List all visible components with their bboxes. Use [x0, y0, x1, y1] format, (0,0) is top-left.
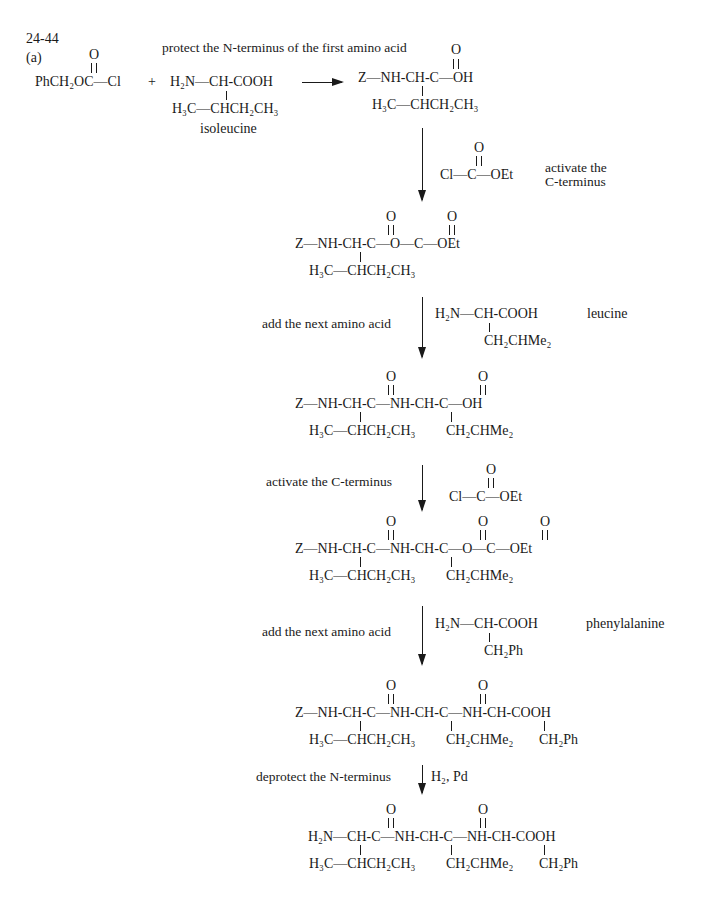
carbonyl-oxygen-3: O	[540, 514, 550, 530]
double-bond-2	[480, 530, 486, 540]
problem-part: (a)	[26, 50, 42, 66]
double-bond	[476, 156, 482, 166]
side-chain-bond-2	[451, 412, 452, 422]
product-backbone: Z—NH-CH-C—NH-CH-C—O—C—OEt	[295, 541, 532, 557]
reagent-h2-pd: H₂, Pd	[431, 769, 468, 785]
step-label: activate the C-terminus	[266, 474, 392, 490]
reagent-ethyl-chloroformate: Cl—C—OEt	[449, 489, 522, 505]
double-bond-1	[388, 818, 394, 828]
reaction-arrow	[422, 606, 423, 664]
product-backbone: Z—NH-CH-C—NH-CH-C—NH-CH-COOH	[295, 705, 551, 721]
side-chain-bond-2	[451, 845, 452, 855]
carbonyl-oxygen-2: O	[478, 802, 488, 818]
carbonyl-oxygen: O	[486, 462, 496, 478]
product-side-chain-2: CH₂CHMe₂	[446, 423, 513, 439]
plus-sign: +	[148, 74, 156, 90]
double-bond-2	[480, 385, 486, 395]
carbonyl-oxygen-1: O	[386, 209, 396, 225]
side-chain-bond-1	[360, 721, 361, 731]
double-bond	[488, 478, 494, 488]
amino-acid-name: phenylalanine	[586, 616, 665, 632]
carbonyl-oxygen: O	[89, 47, 99, 63]
amino-acid-backbone: H₂N—CH-COOH	[435, 306, 538, 322]
product-side-chain-2: CH₂CHMe₂	[446, 856, 513, 872]
amino-acid-name: isoleucine	[200, 121, 257, 137]
double-bond-2	[449, 225, 455, 235]
amino-acid-backbone: H₂N—CH-COOH	[435, 616, 538, 632]
carbonyl-oxygen-2: O	[478, 514, 488, 530]
step-label: protect the N-terminus of the first amin…	[162, 40, 407, 56]
product-side-chain-3: CH₂Ph	[539, 856, 578, 872]
carbonyl-oxygen-1: O	[386, 369, 396, 385]
amino-acid-side-chain: CH₂Ph	[484, 643, 523, 659]
problem-number: 24-44	[26, 31, 59, 47]
side-chain-bond-1	[360, 557, 361, 567]
double-bond	[91, 63, 97, 73]
side-chain-bond-3	[544, 721, 545, 731]
product-side-chain-1: H₃C—CHCH₂CH₃	[309, 423, 415, 439]
double-bond-1	[388, 385, 394, 395]
side-chain-bond	[489, 633, 490, 642]
reagent-ethyl-chloroformate: Cl—C—OEt	[440, 167, 513, 183]
reaction-arrow	[302, 82, 342, 83]
amino-acid-side-chain: H₃C—CHCH₂CH₃	[172, 101, 278, 117]
side-chain-bond-1	[360, 412, 361, 422]
reaction-arrow	[422, 765, 423, 793]
carbonyl-oxygen: O	[451, 42, 461, 58]
side-chain-bond	[422, 86, 423, 96]
carbonyl-oxygen-2: O	[478, 678, 488, 694]
side-chain-bond	[360, 252, 361, 262]
product-backbone: Z—NH-CH-C—O—C—OEt	[295, 236, 460, 252]
double-bond-1	[388, 225, 394, 235]
product-backbone: Z—NH-CH-C—OH	[358, 70, 473, 86]
amino-acid-backbone: H₂N—CH-COOH	[170, 74, 273, 90]
product-side-chain-1: H₃C—CHCH₂CH₃	[309, 568, 415, 584]
amino-acid-side-chain: CH₂CHMe₂	[484, 333, 551, 349]
amino-acid-name: leucine	[587, 306, 627, 322]
carbonyl-oxygen-1: O	[386, 802, 396, 818]
product-side-chain-2: CH₂CHMe₂	[446, 568, 513, 584]
carbonyl-oxygen-1: O	[386, 514, 396, 530]
step-label-line2: C-terminus	[545, 174, 606, 190]
product-side-chain-1: H₃C—CHCH₂CH₃	[309, 732, 415, 748]
carbonyl-oxygen-2: O	[447, 209, 457, 225]
carbonyl-oxygen-2: O	[478, 369, 488, 385]
product-backbone: H₂N—CH-C—NH-CH-C—NH-CH-COOH	[308, 829, 556, 845]
reagent-formula: PhCH₂OC—Cl	[35, 74, 121, 90]
product-side-chain: H₃C—CHCH₂CH₃	[372, 97, 478, 113]
double-bond-1	[388, 530, 394, 540]
product-side-chain: H₃C—CHCH₂CH₃	[309, 263, 415, 279]
double-bond-2	[480, 818, 486, 828]
carbonyl-oxygen: O	[474, 140, 484, 156]
reaction-arrow	[422, 297, 423, 357]
side-chain-bond-2	[451, 721, 452, 731]
double-bond-2	[480, 694, 486, 704]
reaction-arrow	[422, 128, 423, 200]
product-backbone: Z—NH-CH-C—NH-CH-C—OH	[295, 396, 482, 412]
product-side-chain-1: H₃C—CHCH₂CH₃	[309, 856, 415, 872]
side-chain-bond-2	[451, 557, 452, 567]
side-chain-bond	[226, 91, 227, 100]
side-chain-bond-1	[360, 845, 361, 855]
product-side-chain-2: CH₂CHMe₂	[446, 732, 513, 748]
product-side-chain-3: CH₂Ph	[539, 732, 578, 748]
double-bond-3	[542, 530, 548, 540]
carbonyl-oxygen-1: O	[386, 678, 396, 694]
double-bond-1	[388, 694, 394, 704]
side-chain-bond	[489, 323, 490, 332]
double-bond	[453, 59, 459, 69]
step-label: deprotect the N-terminus	[256, 769, 391, 785]
step-label: add the next amino acid	[262, 624, 391, 640]
step-label: add the next amino acid	[262, 316, 391, 332]
reaction-arrow	[422, 465, 423, 510]
side-chain-bond-3	[544, 845, 545, 855]
